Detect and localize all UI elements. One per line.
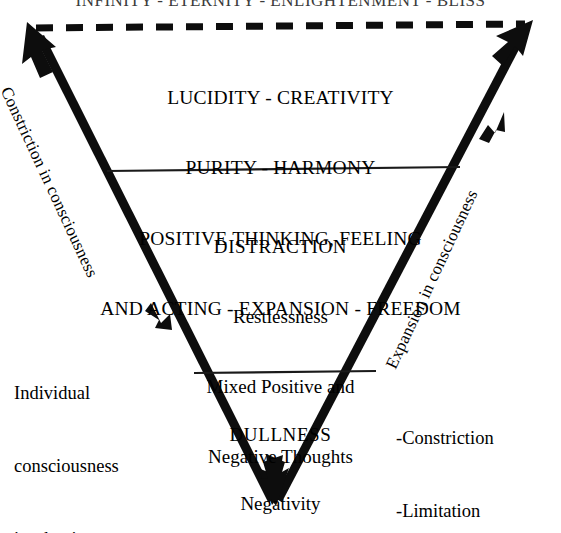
upper-zone-line-1: LUCIDITY - CREATIVITY	[0, 86, 561, 110]
soul-note-line-1: Individual	[14, 381, 189, 405]
negatives-list: -Constriction -Limitation -Mental illnes…	[396, 377, 561, 533]
middle-zone-line-1: Restlessness	[0, 304, 561, 329]
soul-note-line-3: is what is	[14, 527, 189, 533]
diagram-canvas: INFINITY - ETERNITY - ENLIGHTENMENT - BL…	[0, 0, 561, 533]
upper-zone-line-2: PURITY - HARMONY	[0, 156, 561, 180]
dashed-line-icon	[36, 24, 525, 28]
list-item: -Constriction	[396, 426, 561, 450]
soul-note: Individual consciousness is what is refe…	[14, 332, 189, 533]
diagram-title: INFINITY - ETERNITY - ENLIGHTENMENT - BL…	[0, 0, 561, 11]
soul-note-line-2: consciousness	[14, 454, 189, 478]
list-item: -Limitation	[396, 499, 561, 523]
